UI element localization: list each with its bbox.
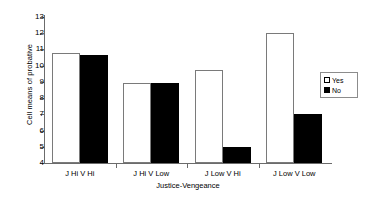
y-axis-tick-group: 45678910111213	[0, 0, 44, 197]
legend-swatch-open-square-icon	[324, 77, 330, 83]
plot-area	[44, 17, 330, 163]
legend-label-no: No	[332, 87, 341, 94]
bar-j-hi-v-low-no	[151, 83, 179, 163]
bar-j-hi-v-hi-no	[80, 55, 108, 163]
bar-j-low-v-low-yes	[266, 33, 294, 163]
x-axis-tick-label: J Hi V Hi	[44, 169, 116, 178]
x-axis-tick-mark	[259, 164, 260, 168]
x-axis-tick-label: J Hi V Low	[116, 169, 188, 178]
y-axis-tick-label: 11	[10, 45, 44, 53]
legend-label-yes: Yes	[332, 77, 343, 84]
y-axis-tick-label: 8	[10, 94, 44, 102]
x-axis-tick-mark	[187, 164, 188, 168]
y-axis-tick-label: 12	[10, 29, 44, 37]
legend-item-no[interactable]: No	[324, 85, 355, 95]
legend: Yes No	[320, 72, 358, 98]
bar-j-low-v-low-no	[294, 114, 322, 163]
bar-j-hi-v-hi-yes	[52, 53, 80, 163]
bar-j-low-v-hi-no	[223, 147, 251, 163]
y-axis-tick-label: 9	[10, 78, 44, 86]
y-axis-tick-label: 4	[10, 159, 44, 167]
bar-chart-figure: Cell means of probative 45678910111213 J…	[0, 0, 382, 197]
y-axis-tick-label: 6	[10, 127, 44, 135]
legend-swatch-filled-square-icon	[324, 87, 330, 93]
x-axis-tick-mark	[116, 164, 117, 168]
bar-j-low-v-hi-yes	[195, 70, 223, 163]
x-axis-tick-label: J Low V Hi	[187, 169, 259, 178]
bar-j-hi-v-low-yes	[123, 83, 151, 163]
x-axis-title: Justice-Vengeance	[44, 181, 332, 190]
y-axis-tick-label: 10	[10, 62, 44, 70]
x-axis-line	[44, 163, 332, 164]
legend-item-yes[interactable]: Yes	[324, 75, 355, 85]
x-axis-tick-label: J Low V Low	[259, 169, 331, 178]
y-axis-tick-label: 5	[10, 143, 44, 151]
y-axis-tick-label: 7	[10, 110, 44, 118]
y-axis-tick-label: 13	[10, 13, 44, 21]
